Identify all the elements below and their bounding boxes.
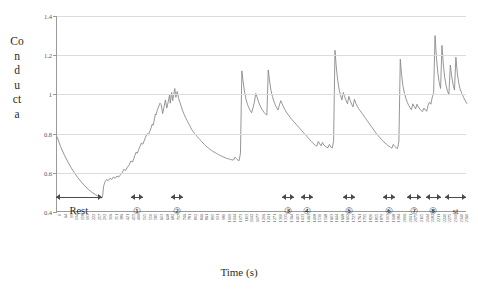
segment-arrow-5 — [343, 193, 355, 202]
segment-arrow-1 — [131, 193, 143, 202]
y-tick-label-1: 1 — [49, 91, 52, 98]
segment-marker-6: ⑥ — [385, 206, 393, 216]
segment-marker-5: ⑤ — [345, 206, 353, 216]
y-tick-0.6 — [53, 173, 57, 174]
y-tick-label-0.4: 0.4 — [44, 209, 52, 216]
segment-arrow-9 — [445, 193, 466, 202]
segment-arrow-2 — [171, 193, 183, 202]
gridline-y-0.6 — [57, 173, 466, 174]
segment-arrow-4 — [301, 193, 313, 202]
y-tick-label-1.2: 1.2 — [44, 52, 52, 59]
y-axis-title-line-3: u — [2, 78, 32, 93]
y-tick-1.4 — [53, 16, 57, 17]
gridline-y-1.2 — [57, 55, 466, 56]
segment-arrow-8 — [426, 193, 441, 202]
y-axis-title-line-2: d — [2, 63, 32, 78]
y-tick-label-1.4: 1.4 — [44, 13, 52, 20]
segment-marker-7: ⑦ — [410, 206, 418, 216]
gridline-y-1.4 — [57, 16, 466, 17]
y-axis-title-line-1: n — [2, 49, 32, 64]
rest-label: Rest — [69, 205, 88, 216]
y-axis-title-line-0: Co — [2, 34, 32, 49]
y-axis-title: Conducta — [2, 34, 32, 121]
segment-marker-9: st — [453, 206, 459, 216]
y-tick-label-0.8: 0.8 — [44, 130, 52, 137]
y-axis-title-line-4: ct — [2, 92, 32, 107]
x-axis-tick-labels: 0649913415819322225729231635138642145549… — [56, 214, 466, 258]
gridline-y-0.8 — [57, 134, 466, 135]
segment-marker-3: ③ — [284, 206, 292, 216]
chart-figure: Conducta 0.40.60.811.21.4 06499134158193… — [0, 0, 478, 292]
gridline-y-1 — [57, 94, 466, 95]
segment-marker-4: ④ — [303, 206, 311, 216]
segment-marker-1: ① — [133, 206, 141, 216]
plot-area: 0.40.60.811.21.4 — [56, 16, 466, 212]
segment-arrow-3 — [282, 193, 294, 202]
y-tick-1 — [53, 94, 57, 95]
conductance-line-series — [57, 16, 467, 212]
annotation-band: Rest①②③④⑤⑥⑦⑧st — [56, 188, 466, 220]
y-tick-label-0.6: 0.6 — [44, 169, 52, 176]
x-axis-title: Time (s) — [0, 266, 478, 278]
y-tick-1.2 — [53, 55, 57, 56]
segment-arrow-6 — [383, 193, 395, 202]
y-axis-title-line-5: a — [2, 107, 32, 122]
segment-arrow-7 — [407, 193, 421, 202]
segment-marker-8: ⑧ — [429, 206, 437, 216]
y-tick-0.8 — [53, 134, 57, 135]
segment-marker-2: ② — [173, 206, 181, 216]
rest-span-arrow — [56, 193, 102, 202]
